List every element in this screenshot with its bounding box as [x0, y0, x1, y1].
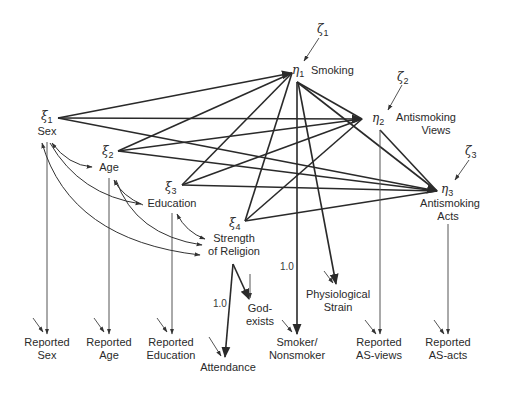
zeta2-label: ζ2 — [397, 71, 409, 88]
eta2-label-line2: Views — [421, 124, 450, 137]
xi4-label-line2: of Religion — [208, 245, 260, 258]
coef-smoker: 1.0 — [280, 261, 294, 272]
eta2-label-line1: Antismoking — [396, 111, 456, 124]
eta3-label-line1: Antismoking — [420, 197, 480, 210]
eta3-label-line2: Acts — [437, 210, 458, 223]
xi3-symbol: ξ3 — [165, 181, 177, 198]
indicator-reported-age-line2: Age — [99, 349, 119, 362]
indicator-reported-education-line1: Reported — [148, 336, 193, 349]
path-xi1-eta2 — [58, 118, 362, 119]
zeta1-label: ζ1 — [317, 23, 329, 40]
xi3-label-education: Education — [148, 197, 197, 210]
xi1-label-sex: Sex — [38, 125, 57, 138]
error-arrow-reported-asacts — [434, 320, 444, 334]
indicator-asviews-line2: AS-views — [356, 349, 402, 362]
path-xi4-attendance — [225, 264, 233, 357]
indicator-asacts-line1: Reported — [425, 336, 470, 349]
error-arrow-reported-age — [94, 318, 104, 332]
error-arrow-reported-sex — [33, 318, 43, 332]
indicator-asviews-line1: Reported — [356, 336, 401, 349]
indicator-asacts-line2: AS-acts — [429, 349, 468, 362]
xi4-label-line1: Strength — [213, 232, 255, 245]
path-xi4-godexists — [233, 264, 249, 299]
indicator-strain-line2: Strain — [324, 301, 353, 314]
indicator-strain-line1: Physiological — [306, 288, 370, 301]
zeta2-arrow — [388, 85, 402, 110]
error-arrow-strain — [324, 271, 333, 283]
indicator-smoker-line2: Nonsmoker — [269, 349, 325, 362]
indicator-reported-education-line2: Education — [147, 349, 196, 362]
xi2-label-age: Age — [99, 161, 119, 174]
xi2-symbol: ξ2 — [102, 145, 114, 162]
path-eta1-eta3 — [297, 82, 437, 191]
eta1-symbol: η1 — [292, 64, 304, 81]
indicator-godexists-line2: exists — [246, 315, 274, 328]
error-arrow-reported-asviews — [365, 320, 376, 334]
indicator-godexists-line1: God- — [248, 302, 272, 315]
indicator-reported-age-line1: Reported — [86, 336, 131, 349]
corr-xi2-xi4 — [116, 180, 202, 245]
error-arrow-smoker — [282, 320, 292, 332]
corr-xi3-xi4 — [177, 214, 205, 239]
eta2-symbol: η2 — [372, 112, 384, 129]
indicator-reported-sex-line2: Sex — [38, 349, 57, 362]
zeta3-label: ζ3 — [465, 145, 477, 162]
path-xi1-eta1 — [58, 73, 292, 118]
indicator-attendance: Attendance — [200, 361, 256, 374]
path-eta1-eta2 — [297, 82, 362, 119]
path-xi3-eta2 — [182, 119, 362, 185]
zeta3-arrow — [455, 160, 469, 180]
eta1-label-smoking: Smoking — [311, 64, 354, 77]
indicator-reported-sex-line1: Reported — [24, 336, 69, 349]
path-eta1-strain — [298, 82, 336, 284]
error-arrow-attendance — [209, 337, 221, 356]
indicator-smoker-line1: Smoker/ — [277, 336, 318, 349]
coef-attendance: 1.0 — [213, 298, 227, 309]
error-arrow-reported-education — [157, 318, 167, 332]
zeta1-arrow — [304, 38, 319, 61]
path-xi3-eta1 — [182, 73, 292, 185]
